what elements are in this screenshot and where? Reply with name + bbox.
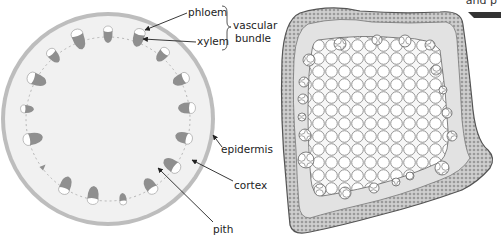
pith-label: pith — [213, 223, 233, 235]
figure-canvas: phloem xylem vascular bundle epidermis c… — [0, 0, 501, 241]
vascular-bundle-label-line1: vascular — [233, 19, 278, 31]
xylem-label: xylem — [197, 35, 229, 47]
stem-cross-section-figure: phloem xylem vascular bundle epidermis c… — [0, 0, 501, 241]
corner-fragment-text: and p — [466, 0, 497, 7]
epidermis-label: epidermis — [221, 143, 273, 155]
vascular-bundle — [103, 26, 112, 43]
phloem-label: phloem — [188, 6, 227, 18]
corner-tab — [468, 12, 501, 18]
cortex-label: cortex — [234, 179, 267, 191]
cortex-and-pith — [5, 16, 211, 222]
schematic-stem: phloem xylem vascular bundle epidermis c… — [1, 6, 278, 235]
vascular-bundle — [178, 102, 196, 113]
vascular-bundle-label-line2: bundle — [235, 32, 271, 44]
micrograph-stem — [282, 8, 493, 233]
